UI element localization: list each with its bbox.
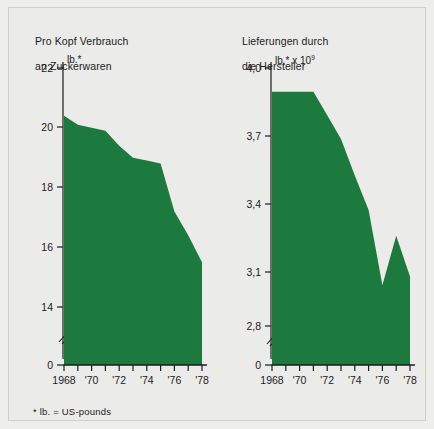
x-tick-label: 1968 xyxy=(52,374,76,386)
y-tick-label: 20 xyxy=(41,121,53,133)
x-tick-label: '78 xyxy=(403,374,417,386)
area-series-left xyxy=(64,116,202,365)
x-tick-label: '72 xyxy=(112,374,126,386)
y-tick-label: 0 xyxy=(255,359,261,371)
figure-root: Pro Kopf Verbrauch an Zuckerwaren lb.* 2… xyxy=(0,0,434,429)
y-tick-label: 0 xyxy=(47,359,53,371)
chart-svg-right: 4,0 3,7 3,4 3,1 2,8 0 1968'70'72'74'76'7… xyxy=(218,8,427,422)
chart-panel-left: Pro Kopf Verbrauch an Zuckerwaren lb.* 2… xyxy=(9,8,218,420)
x-tick-label: '70 xyxy=(293,374,307,386)
x-tick-label: 1968 xyxy=(260,374,284,386)
x-tick-label: '72 xyxy=(320,374,334,386)
footnote: * lb. = US-pounds xyxy=(33,406,111,417)
x-ticks-left: 1968'70'72'74'76'78 xyxy=(52,365,209,386)
y-tick-label: 3,4 xyxy=(246,198,261,210)
x-tick-label: '76 xyxy=(376,374,390,386)
x-tick-label: '78 xyxy=(195,374,209,386)
area-series-right xyxy=(272,92,410,365)
x-tick-label: '74 xyxy=(140,374,154,386)
y-tick-label: 2,8 xyxy=(246,320,261,332)
y-tick-label: 16 xyxy=(41,241,53,253)
y-tick-label: 3,1 xyxy=(246,266,261,278)
x-tick-label: '74 xyxy=(348,374,362,386)
x-tick-label: '70 xyxy=(85,374,99,386)
y-ticks-left: 22 20 18 16 14 0 xyxy=(41,62,63,371)
y-ticks-right: 4,0 3,7 3,4 3,1 2,8 0 xyxy=(246,62,271,371)
x-tick-label: '76 xyxy=(168,374,182,386)
y-tick-label: 3,7 xyxy=(246,130,261,142)
y-tick-label: 14 xyxy=(41,301,53,313)
x-ticks-right: 1968'70'72'74'76'78 xyxy=(260,365,417,386)
chart-panel-right: Lieferungen durch die Hersteller lb.* x … xyxy=(218,8,427,420)
y-tick-label: 22 xyxy=(41,62,53,74)
figure-frame: Pro Kopf Verbrauch an Zuckerwaren lb.* 2… xyxy=(8,7,426,421)
y-tick-label: 18 xyxy=(41,181,53,193)
chart-svg-left: 22 20 18 16 14 0 1968'70'72'74'76'78 xyxy=(9,8,218,422)
y-tick-label: 4,0 xyxy=(246,62,261,74)
